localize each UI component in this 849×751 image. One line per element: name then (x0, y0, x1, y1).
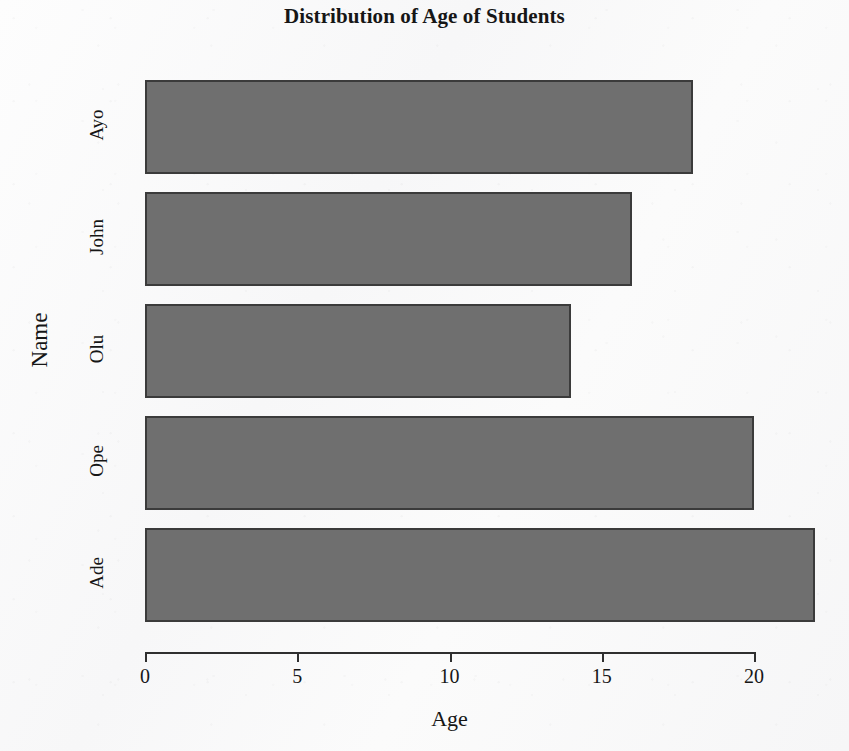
x-tick-label-3: 15 (572, 665, 632, 688)
x-axis-title: Age (145, 706, 754, 732)
x-tick-mark (754, 652, 756, 662)
y-axis-title: Name (27, 275, 53, 405)
bar-olu[interactable] (145, 304, 571, 398)
y-tick-label-1: John (86, 172, 108, 302)
x-tick-label-2: 10 (420, 665, 480, 688)
bar-john[interactable] (145, 192, 632, 286)
x-tick-label-4: 20 (724, 665, 784, 688)
y-tick-label-4: Ade (86, 508, 108, 638)
y-tick-label-0: Ayo (86, 60, 108, 190)
bar-ope[interactable] (145, 416, 754, 510)
chart-page: Distribution of Age of Students Name Ayo… (0, 0, 849, 751)
x-tick-mark (602, 652, 604, 662)
y-tick-label-3: Ope (86, 396, 108, 526)
x-tick-label-1: 5 (267, 665, 327, 688)
bar-ayo[interactable] (145, 80, 693, 174)
x-tick-label-0: 0 (115, 665, 175, 688)
x-tick-mark (297, 652, 299, 662)
bar-ade[interactable] (145, 528, 815, 622)
chart-title: Distribution of Age of Students (0, 4, 849, 29)
x-tick-mark (145, 652, 147, 662)
y-tick-label-2: Olu (86, 284, 108, 414)
plot-area (145, 80, 765, 653)
x-tick-mark (450, 652, 452, 662)
